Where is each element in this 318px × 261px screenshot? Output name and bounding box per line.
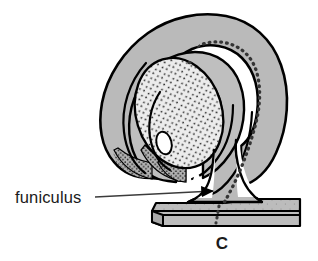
ovule-diagram: funiculus C	[0, 0, 318, 261]
figure-page: funiculus C	[0, 0, 318, 261]
funiculus-label: funiculus	[15, 188, 81, 206]
base-plate-front-face	[152, 211, 300, 226]
panel-letter-label: C	[216, 234, 228, 253]
